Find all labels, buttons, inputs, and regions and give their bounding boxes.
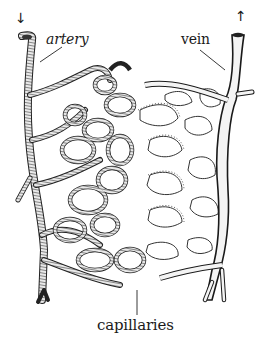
capillary-diagram: ↓ ↑ artery vein capillaries — [0, 0, 272, 345]
vein — [145, 33, 252, 300]
artery-leader-line — [40, 47, 62, 62]
vein-leader-line — [200, 50, 225, 70]
vein-label: vein — [181, 32, 210, 46]
vessel-illustration — [0, 0, 272, 345]
vein-flow-arrow-icon: ↑ — [235, 9, 247, 23]
artery-opening — [22, 35, 32, 40]
vein-opening — [232, 33, 244, 37]
artery-flow-arrow-icon: ↓ — [15, 11, 27, 25]
capillaries-label: capillaries — [97, 318, 174, 333]
artery-label: artery — [46, 32, 88, 46]
capillary-network-venous — [140, 89, 220, 260]
